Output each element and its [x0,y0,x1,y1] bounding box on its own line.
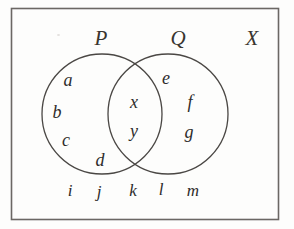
element-y: y [130,122,138,140]
element-l: l [159,181,164,198]
set-label-q: Q [170,28,185,49]
element-d: d [96,151,105,169]
element-c: c [62,131,70,149]
element-e: e [162,69,170,87]
paper-speck [57,34,60,36]
element-m: m [187,182,199,199]
element-x: x [130,93,138,111]
element-j: j [97,183,102,200]
element-i: i [68,182,73,199]
element-k: k [129,182,137,199]
set-label-p: P [95,28,108,49]
venn-diagram-figure: P Q X a b c d x y e f g i j k l m [0,0,294,229]
element-a: a [64,71,73,89]
element-b: b [53,103,62,121]
element-f: f [187,93,192,111]
element-g: g [185,123,194,141]
universal-set-label-x: X [246,28,259,49]
